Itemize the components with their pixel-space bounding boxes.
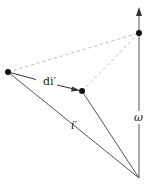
- i-prime-plus-di-vector: [82, 91, 139, 178]
- point-left: [5, 69, 11, 75]
- omega-arrowhead-icon: [136, 7, 142, 16]
- diagram-svg: [0, 0, 148, 186]
- dashed-line-left-to-top: [8, 33, 139, 72]
- label-di-prime: di′: [43, 76, 56, 87]
- vector-diagram: di′ i′ ω: [0, 0, 148, 186]
- label-i-prime: i′: [71, 120, 77, 131]
- label-omega: ω: [134, 111, 143, 124]
- di-prime-arrowhead-icon: [71, 87, 80, 92]
- point-top-right: [136, 30, 142, 36]
- point-middle: [79, 88, 85, 94]
- dashed-line-middle-to-top: [82, 33, 139, 91]
